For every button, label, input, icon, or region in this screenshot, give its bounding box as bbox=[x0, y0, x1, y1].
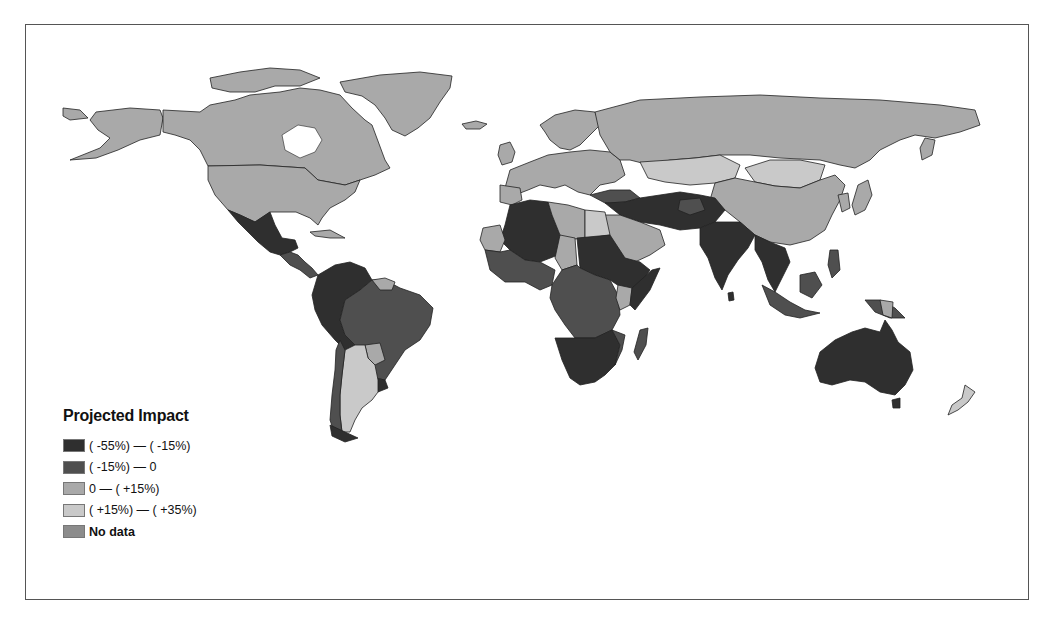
region-korea bbox=[838, 193, 850, 212]
legend-label: 0 — ( +15%) bbox=[89, 482, 160, 496]
region-egypt bbox=[585, 210, 610, 238]
legend-label: ( +15%) — ( +35%) bbox=[89, 503, 197, 517]
region-philippines bbox=[828, 250, 840, 278]
region-mauritania bbox=[480, 225, 505, 252]
region-central-america bbox=[280, 252, 318, 278]
region-scandinavia bbox=[540, 110, 600, 150]
legend-swatch bbox=[63, 504, 85, 517]
legend-label: ( -15%) — 0 bbox=[89, 460, 156, 474]
legend-swatch bbox=[63, 461, 85, 474]
region-aleutians bbox=[63, 108, 88, 120]
region-iberia bbox=[500, 185, 522, 205]
legend-item: No data bbox=[63, 521, 197, 543]
north-america bbox=[63, 68, 487, 278]
legend: Projected Impact ( -55%) — ( -15%) ( -15… bbox=[63, 407, 197, 543]
region-borneo bbox=[800, 272, 822, 298]
region-cuba bbox=[310, 230, 345, 238]
region-sri-lanka bbox=[728, 292, 734, 301]
region-kamchatka bbox=[920, 138, 935, 160]
region-southern-africa bbox=[555, 330, 620, 385]
region-mexico bbox=[228, 210, 298, 255]
legend-swatch bbox=[63, 525, 85, 538]
legend-item: ( -55%) — ( -15%) bbox=[63, 435, 197, 457]
region-japan bbox=[852, 180, 872, 215]
legend-item: ( +15%) — ( +35%) bbox=[63, 500, 197, 522]
legend-item: ( -15%) — 0 bbox=[63, 457, 197, 479]
region-australia bbox=[815, 320, 913, 395]
region-kenya bbox=[616, 285, 632, 310]
oceania bbox=[762, 250, 975, 415]
region-india bbox=[700, 222, 755, 290]
region-papua-new-guinea bbox=[880, 300, 893, 318]
legend-swatch bbox=[63, 439, 85, 452]
legend-item: 0 — ( +15%) bbox=[63, 478, 197, 500]
region-uk bbox=[498, 142, 515, 165]
legend-label: ( -55%) — ( -15%) bbox=[89, 439, 190, 453]
legend-title: Projected Impact bbox=[63, 407, 197, 425]
region-madagascar bbox=[634, 328, 648, 360]
south-america bbox=[312, 262, 433, 442]
region-tasmania bbox=[892, 398, 900, 408]
legend-swatch bbox=[63, 482, 85, 495]
region-continental-europe bbox=[505, 150, 625, 195]
region-new-zealand bbox=[948, 385, 975, 415]
legend-label: No data bbox=[89, 525, 135, 539]
region-iceland bbox=[462, 121, 487, 129]
